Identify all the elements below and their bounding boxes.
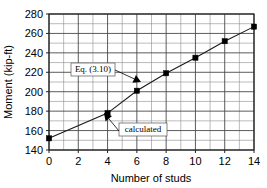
x-tick-label: 10	[189, 155, 201, 167]
data-point-marker	[134, 88, 139, 93]
x-tick-label: 4	[105, 155, 111, 167]
x-tick-label: 12	[219, 155, 231, 167]
x-tick-label: 6	[134, 155, 140, 167]
data-point-marker	[46, 136, 51, 141]
y-tick-label: 280	[25, 8, 43, 20]
annotation-label: calculated	[125, 124, 162, 134]
y-tick-label: 140	[25, 144, 43, 156]
chart-figure: 02468101214 140160180200220240260280 Num…	[0, 0, 267, 188]
data-point-marker	[251, 24, 256, 29]
y-tick-label: 180	[25, 105, 43, 117]
data-point-marker	[193, 55, 198, 60]
x-tick-label: 2	[75, 155, 81, 167]
x-tick-label: 0	[46, 155, 52, 167]
data-point-marker	[164, 71, 169, 76]
x-axis-title: Number of studs	[111, 172, 192, 184]
x-tick-label: 8	[163, 155, 169, 167]
x-tick-label: 14	[248, 155, 260, 167]
annotation-label: Eq. (3.10)	[75, 64, 111, 74]
y-tick-label: 160	[25, 125, 43, 137]
chart-plot: 02468101214 140160180200220240260280 Num…	[0, 0, 267, 188]
y-tick-label: 240	[25, 47, 43, 59]
y-tick-label: 220	[25, 66, 43, 78]
y-axis-title: Moment (kip-ft)	[2, 45, 14, 119]
y-tick-label: 200	[25, 86, 43, 98]
y-tick-label: 260	[25, 27, 43, 39]
data-point-marker	[222, 39, 227, 44]
